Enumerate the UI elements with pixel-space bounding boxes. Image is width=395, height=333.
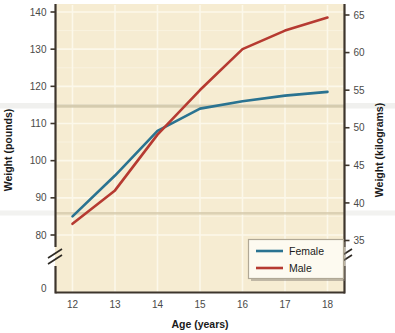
right-tick-label: 60 <box>354 47 366 58</box>
right-tick-label: 65 <box>354 10 366 21</box>
left-tick-label: 110 <box>31 118 47 129</box>
right-tick-label: 35 <box>354 235 366 246</box>
chart-canvas: 08090100110120130140 35404550556065 1213… <box>0 0 395 333</box>
x-tick-label: 15 <box>194 299 206 310</box>
left-tick-label: 130 <box>30 44 47 55</box>
x-axis-title: Age (years) <box>171 318 228 330</box>
x-tick-label: 17 <box>279 299 291 310</box>
right-tick-label: 50 <box>354 122 366 133</box>
left-tick-label: 80 <box>35 230 47 241</box>
right-tick-label: 55 <box>354 85 366 96</box>
x-tick-label: 12 <box>67 299 79 310</box>
left-tick-label: 120 <box>30 81 47 92</box>
y2-axis-title: Weight (kilograms) <box>373 103 385 197</box>
x-tick-label: 18 <box>322 299 334 310</box>
legend-label-female: Female <box>289 245 324 257</box>
weight-vs-age-line-chart: 08090100110120130140 35404550556065 1213… <box>0 0 395 333</box>
right-tick-label: 45 <box>354 160 366 171</box>
x-tick-label: 16 <box>237 299 249 310</box>
left-tick-label: 0 <box>41 283 47 294</box>
left-tick-label: 140 <box>30 7 47 18</box>
legend[interactable]: Female Male <box>249 240 347 282</box>
left-tick-label: 100 <box>30 155 47 166</box>
legend-label-male: Male <box>289 262 312 274</box>
left-tick-label: 90 <box>35 192 47 203</box>
right-tick-label: 40 <box>354 198 366 209</box>
y-axis-title: Weight (pounds) <box>2 109 14 192</box>
x-tick-label: 13 <box>109 299 121 310</box>
x-tick-label: 14 <box>152 299 164 310</box>
